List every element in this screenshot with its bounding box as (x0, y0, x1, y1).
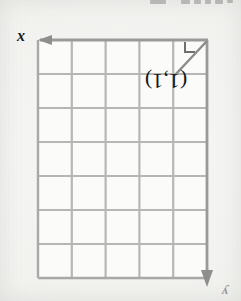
y-axis-label: y (222, 286, 228, 299)
coordinate-point-label: (1,1) (145, 70, 187, 92)
worksheet-page: x (1,1) y (0, 0, 241, 301)
coordinate-grid-figure (0, 0, 241, 301)
x-axis-label: x (17, 28, 25, 44)
